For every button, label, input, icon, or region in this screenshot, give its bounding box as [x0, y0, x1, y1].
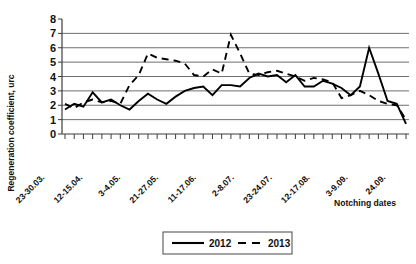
y-tick-label: 6 — [50, 42, 56, 54]
y-tick-label: 4 — [50, 71, 57, 83]
x-tick-label: 23-30.03. — [14, 172, 47, 205]
y-tick-label: 8 — [50, 13, 56, 25]
x-axis-category-labels: 23-30.03.12-15.04.3-4.05.21-27.05.11-17.… — [14, 172, 388, 205]
y-tick-label: 7 — [50, 27, 56, 39]
legend-label-2013: 2013 — [268, 238, 291, 249]
x-tick-label: 3-4.05. — [96, 172, 122, 198]
y-tick-label: 2 — [50, 99, 56, 111]
x-tick-label: 3-9.09. — [324, 172, 350, 198]
series-line-2012 — [65, 48, 406, 124]
x-tick-label: 23-24.07. — [241, 172, 274, 205]
y-tick-label: 3 — [50, 85, 56, 97]
x-tick-label: 2-8.07. — [210, 172, 236, 198]
x-tick-label: 12-17.08. — [279, 172, 312, 205]
gridlines — [62, 33, 409, 119]
y-tick-label: 1 — [50, 114, 56, 126]
x-tick-label: 11-17.06. — [166, 172, 198, 204]
x-axis-title: Notching dates — [334, 198, 396, 208]
legend: 2012 2013 — [163, 232, 292, 254]
y-tick-label: 0 — [50, 128, 56, 140]
line-chart: Regeneration coefficient, urc 012345678 … — [0, 0, 416, 264]
x-tick-label: 21-27.05. — [127, 172, 160, 205]
chart-figure: Regeneration coefficient, urc 012345678 … — [0, 0, 416, 264]
x-tick-label: 12-15.04. — [52, 172, 85, 205]
y-axis-title: Regeneration coefficient, urc — [6, 74, 16, 191]
y-tick-label: 5 — [50, 56, 56, 68]
legend-label-2012: 2012 — [209, 238, 232, 249]
x-tick-label: 24.09. — [363, 172, 387, 196]
x-axis-tick-marks — [65, 134, 406, 139]
y-axis-tick-labels: 012345678 — [50, 13, 62, 140]
